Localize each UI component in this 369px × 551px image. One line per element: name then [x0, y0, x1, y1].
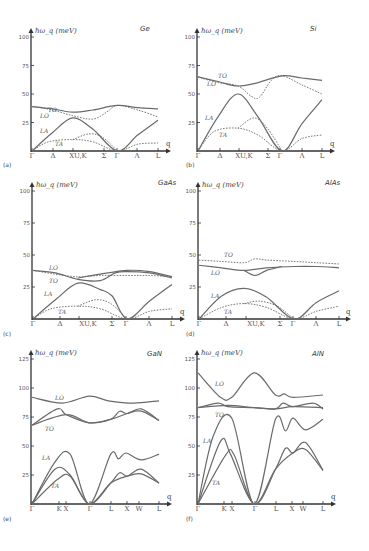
x-tick-label: Σ — [266, 152, 271, 160]
x-tick-label: Λ — [312, 320, 319, 328]
x-tick-label: Γ — [30, 505, 35, 513]
panel-label: (c) — [3, 330, 11, 337]
y-axis-label: ħω_q (meV) — [35, 349, 77, 357]
x-tick-label: Γ — [30, 152, 35, 160]
phonon-dispersion-figure: 255075100ΓΔXU,KΣΓΛLħω_q (meV)qGe(a)TOLOL… — [0, 0, 369, 551]
branch-la — [198, 414, 323, 504]
branch-to2 — [198, 405, 323, 409]
x-tick-label: Γ — [278, 152, 283, 160]
branch-la — [32, 451, 159, 504]
branch-ta2 — [73, 134, 118, 151]
branch-lo — [32, 396, 159, 403]
x-tick-label: Δ — [50, 152, 55, 160]
y-tick-label: 100 — [19, 385, 30, 391]
x-axis-arrow-icon — [346, 317, 351, 322]
x-tick-label: Γ — [196, 152, 201, 160]
x-tick-label: L — [170, 320, 175, 328]
branch-label-lo: LO — [214, 380, 224, 387]
x-tick-label: Σ — [278, 320, 283, 328]
panel-label: (e) — [3, 515, 11, 522]
material-label: GaAs — [158, 179, 177, 187]
x-tick-label: Γ — [88, 505, 93, 513]
branch-label-lo: LO — [210, 269, 220, 276]
y-tick-label: 75 — [189, 220, 196, 226]
branch-label-la: LA — [41, 454, 51, 461]
x-tick-label: Σ — [102, 152, 107, 160]
x-axis-label: q — [180, 308, 185, 316]
panel-si: 255075100ΓΔXU,KΣΓΛLħω_q (meV)qSi(b)TOLOL… — [185, 25, 336, 168]
y-tick-label: 50 — [188, 443, 195, 449]
y-tick-label: 100 — [19, 34, 30, 40]
branch-to — [199, 259, 339, 264]
branch-label-to: TO — [218, 72, 227, 79]
x-axis-arrow-icon — [330, 149, 335, 154]
x-tick-label: K — [56, 505, 62, 513]
x-tick-label: L — [157, 505, 162, 513]
y-tick-label: 125 — [185, 356, 196, 362]
y-axis-arrow-icon — [29, 28, 34, 33]
panel-label: (f) — [186, 515, 193, 522]
x-axis-label: q — [331, 493, 336, 501]
x-tick-label: L — [156, 152, 161, 160]
x-tick-label: L — [109, 505, 114, 513]
y-tick-label: 100 — [185, 385, 196, 391]
x-tick-label: Λ — [298, 152, 305, 160]
branch-label-lo: LO — [54, 394, 64, 401]
branch-label-ta: TA — [51, 482, 60, 489]
branch-la — [33, 283, 172, 319]
y-tick-label: 100 — [185, 34, 196, 40]
x-tick-label: Γ — [115, 152, 120, 160]
branch-ta — [32, 140, 158, 151]
x-axis-arrow-icon — [166, 149, 171, 154]
branch-label-ta: TA — [58, 308, 67, 315]
y-tick-label: 75 — [22, 414, 29, 420]
x-tick-label: XU,K — [79, 320, 97, 328]
y-axis-arrow-icon — [196, 182, 201, 187]
y-tick-label: 50 — [22, 91, 29, 97]
y-tick-label: 75 — [188, 63, 195, 69]
panel-ge: 255075100ΓΔXU,KΣΓΛLħω_q (meV)qGe(a)TOLOL… — [3, 25, 171, 168]
y-tick-label: 25 — [22, 472, 29, 478]
branch-ta2 — [198, 448, 323, 504]
branch-to — [198, 76, 322, 86]
x-tick-label: XU,K — [69, 152, 87, 160]
branch-label-la: LA — [43, 290, 53, 297]
branch-to2 — [32, 411, 159, 425]
y-axis-label: ħω_q (meV) — [35, 27, 77, 35]
material-label: Ge — [140, 25, 150, 33]
panel-label: (a) — [3, 161, 11, 168]
x-tick-label: Δ — [223, 320, 228, 328]
y-tick-label: 25 — [22, 120, 29, 126]
x-axis-arrow-icon — [331, 502, 336, 507]
branch-label-to: TO — [224, 251, 233, 258]
x-tick-label: Γ — [291, 320, 296, 328]
panel-label: (d) — [186, 330, 195, 337]
x-tick-label: L — [274, 505, 279, 513]
material-label: AlAs — [324, 179, 341, 187]
y-tick-label: 25 — [189, 284, 196, 290]
x-tick-label: XU,K — [235, 152, 253, 160]
material-label: Si — [310, 25, 316, 33]
y-tick-label: 75 — [22, 63, 29, 69]
branch-label-to: TO — [49, 277, 58, 284]
branch-label-lo: LO — [39, 112, 49, 119]
y-axis-label: ħω_q (meV) — [202, 181, 244, 189]
branch-label-ta: TA — [224, 308, 233, 315]
y-axis-label: ħω_q (meV) — [201, 27, 243, 35]
x-tick-label: Δ — [57, 320, 62, 328]
panel-alas: 255075100ΓΔXU,KΣΓΛLħω_q (meV)qAlAs(d)TOL… — [186, 179, 352, 337]
x-tick-label: X — [64, 505, 69, 513]
x-tick-label: W — [135, 505, 143, 513]
x-axis-label: q — [330, 140, 335, 148]
x-tick-label: X — [290, 505, 295, 513]
panel-label: (b) — [186, 161, 195, 168]
material-label: AlN — [311, 350, 325, 358]
x-tick-label: L — [337, 320, 342, 328]
y-axis-arrow-icon — [195, 350, 200, 355]
material-label: GaN — [147, 350, 163, 358]
branch-ta — [199, 304, 339, 319]
x-tick-label: Γ — [253, 505, 258, 513]
y-axis-arrow-icon — [30, 182, 35, 187]
y-axis-arrow-icon — [195, 28, 200, 33]
y-tick-label: 50 — [22, 443, 29, 449]
